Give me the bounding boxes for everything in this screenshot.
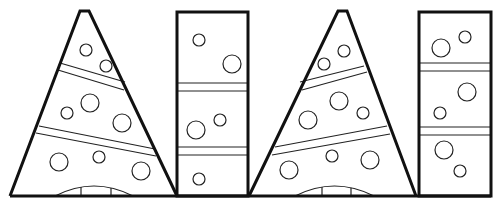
dot-circle	[113, 114, 131, 132]
rect-outline	[177, 12, 248, 196]
dot-circle	[458, 83, 476, 101]
cone-2	[249, 11, 416, 196]
dot-circle	[50, 153, 68, 171]
dot-circle	[459, 31, 471, 43]
dot-circle	[326, 150, 338, 162]
dot-circle	[434, 107, 446, 119]
dot-circle	[432, 39, 450, 57]
dot-circle	[61, 107, 73, 119]
dot-circle	[132, 162, 150, 180]
dot-circle	[214, 114, 226, 126]
stripe-line	[58, 70, 124, 90]
dot-circle	[299, 111, 317, 129]
dot-circle	[280, 161, 298, 179]
stripe-line	[302, 72, 367, 90]
dot-circle	[357, 107, 369, 119]
dot-circle	[223, 55, 241, 73]
rect-2	[419, 12, 491, 196]
dot-circle	[454, 165, 466, 177]
dot-circle	[330, 92, 348, 110]
dot-circle	[93, 151, 105, 163]
dot-circle	[187, 121, 205, 139]
stripe-line	[275, 126, 387, 147]
dot-circle	[338, 45, 350, 57]
cone-1	[10, 11, 177, 196]
dot-circle	[435, 141, 453, 159]
rect-1	[177, 12, 248, 196]
dot-circle	[100, 60, 112, 72]
dot-circle	[81, 94, 99, 112]
dot-circle	[193, 34, 205, 46]
drawing-canvas	[0, 0, 504, 209]
dot-circle	[318, 58, 330, 70]
dot-circle	[193, 173, 205, 185]
dot-circle	[361, 151, 379, 169]
dot-circle	[80, 44, 92, 56]
